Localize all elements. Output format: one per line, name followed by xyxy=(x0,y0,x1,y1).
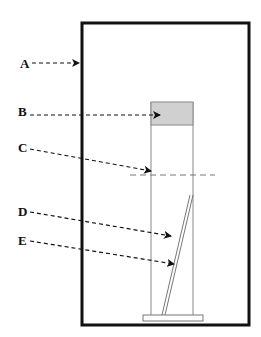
slanted-rod xyxy=(162,195,193,315)
label-d: D xyxy=(18,204,27,219)
base-plate xyxy=(143,315,203,321)
label-e: E xyxy=(18,233,27,248)
label-b: B xyxy=(18,104,27,119)
diagram-canvas: A B C D E xyxy=(0,0,261,337)
arrow-d xyxy=(30,212,171,236)
outer-container xyxy=(82,23,249,325)
arrow-c xyxy=(30,149,151,171)
label-c: C xyxy=(18,140,27,155)
shaded-top-layer xyxy=(151,102,193,125)
label-a: A xyxy=(20,56,30,71)
arrow-e xyxy=(30,241,174,264)
